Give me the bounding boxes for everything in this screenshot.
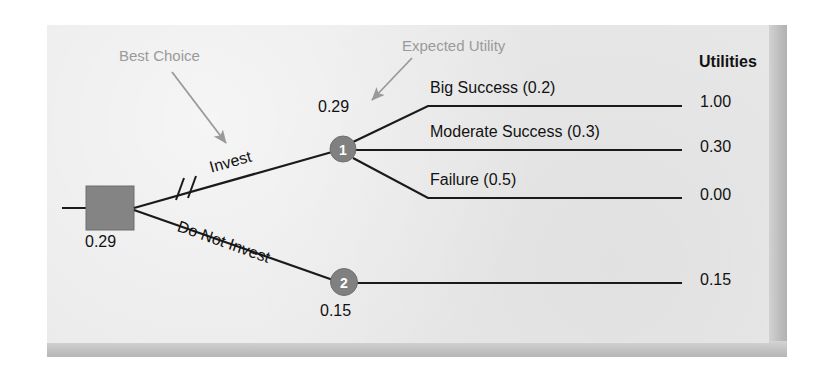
outcome-line-failure <box>353 158 682 198</box>
chance-node-2-expected-utility: 0.15 <box>320 303 351 319</box>
expected-utility-arrow <box>372 58 412 100</box>
decision-tree-figure: Best Choice Expected Utility Utilities 0… <box>0 0 829 377</box>
utilities-column-header: Utilities <box>699 54 757 70</box>
outcome-label-moderate-success: Moderate Success (0.3) <box>430 124 600 140</box>
utility-value-big-success: 1.00 <box>700 94 731 110</box>
best-choice-hash-2 <box>188 176 196 198</box>
chance-node-2-circle <box>331 269 358 296</box>
best-choice-hash-1 <box>176 178 184 200</box>
annotation-expected-utility: Expected Utility <box>402 38 505 53</box>
annotation-best-choice: Best Choice <box>119 48 200 63</box>
utility-value-no-invest: 0.15 <box>700 272 731 288</box>
utility-value-failure: 0.00 <box>700 187 731 203</box>
chance-node-1-expected-utility: 0.29 <box>318 99 349 115</box>
decision-node-value: 0.29 <box>85 234 116 250</box>
best-choice-arrow <box>172 72 226 143</box>
outcome-label-failure: Failure (0.5) <box>430 172 516 188</box>
chance-node-1-circle <box>330 136 356 162</box>
decision-node-square <box>86 186 134 230</box>
outcome-label-big-success: Big Success (0.2) <box>430 80 555 96</box>
utility-value-moderate-success: 0.30 <box>700 139 731 155</box>
